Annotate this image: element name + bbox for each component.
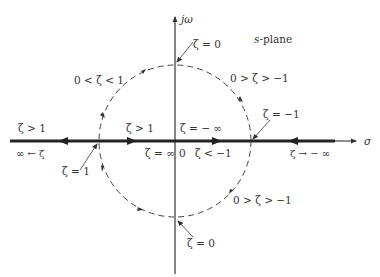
circle-arrow-upper-right (238, 96, 243, 102)
label-inf-arrow-zeta: ∞ ← ζ (16, 148, 45, 159)
s-plane-root-locus-diagram: jω σ s-plane ζ = 0 0 < ζ < 1 0 > ζ > −1 … (0, 0, 380, 277)
arrow-left-outer (58, 137, 68, 145)
label-zeta-neg-inf: ζ = − ∞ (180, 122, 222, 134)
label-underdamped: 0 < ζ < 1 (74, 74, 124, 86)
plane-title: s-plane (254, 33, 292, 45)
label-zeta0-top: ζ = 0 (193, 38, 221, 50)
arrow-right-inner (127, 137, 137, 145)
arrow-left-neg (288, 137, 298, 145)
imaginary-axis-label: jω (179, 13, 193, 25)
leader-zeta0-top (177, 42, 193, 62)
label-zeta-neg1: ζ = −1 (263, 108, 300, 120)
label-zeta-gt1-inner: ζ > 1 (126, 122, 154, 134)
leader-zeta-neg1 (253, 120, 270, 139)
label-zeta0-bottom: ζ = 0 (187, 237, 215, 249)
real-axis-label: σ (364, 135, 372, 147)
label-zeta-gt1-left: ζ > 1 (18, 122, 46, 134)
label-zeta-1: ζ = 1 (62, 165, 90, 177)
arrow-right-neg (212, 137, 222, 145)
circle-arrow-left-lower (101, 165, 104, 172)
circle-arrow-upper-left (141, 69, 146, 74)
label-zeta-inf: ζ = ∞ (145, 147, 175, 159)
label-negdamped-top: 0 > ζ > −1 (230, 72, 289, 84)
label-zeta-lt-neg1: ζ < −1 (195, 147, 232, 159)
leader-zeta0-bottom (178, 221, 193, 237)
label-origin: 0 (179, 147, 186, 159)
label-negdamped-bottom: 0 > ζ > −1 (233, 194, 292, 206)
label-zeta-to-neg-inf: ζ → − ∞ (290, 148, 330, 159)
